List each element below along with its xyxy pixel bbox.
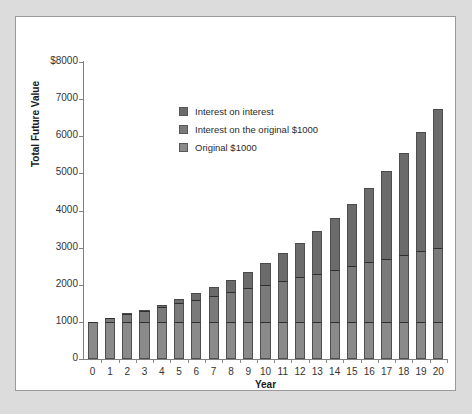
x-tick-mark bbox=[447, 359, 448, 363]
bar-year-20[interactable] bbox=[433, 109, 443, 359]
y-tick-label: 6000 bbox=[56, 129, 78, 140]
bar-year-3[interactable] bbox=[139, 310, 149, 359]
x-tick-mark bbox=[101, 359, 102, 363]
bar-segment-interest-on-original bbox=[312, 274, 322, 322]
y-tick-label: 3000 bbox=[56, 241, 78, 252]
x-tick-mark bbox=[222, 359, 223, 363]
y-tick-mark bbox=[79, 248, 84, 249]
legend-item[interactable]: Interest on interest bbox=[179, 103, 318, 119]
bar-segment-original bbox=[191, 322, 201, 359]
bar-year-18[interactable] bbox=[399, 153, 409, 359]
bar-year-19[interactable] bbox=[416, 132, 426, 359]
bar-year-6[interactable] bbox=[191, 293, 201, 359]
bar-segment-interest-on-interest bbox=[157, 305, 167, 307]
bar-segment-interest-on-interest bbox=[312, 231, 322, 274]
x-tick-mark bbox=[170, 359, 171, 363]
y-tick-mark bbox=[79, 322, 84, 323]
x-axis-line bbox=[83, 359, 448, 360]
bar-segment-interest-on-interest bbox=[278, 253, 288, 281]
y-tick-mark bbox=[79, 359, 84, 360]
bar-year-1[interactable] bbox=[105, 318, 115, 359]
x-tick-mark bbox=[343, 359, 344, 363]
x-tick-mark bbox=[136, 359, 137, 363]
bar-segment-interest-on-original bbox=[209, 296, 219, 322]
bar-year-14[interactable] bbox=[330, 218, 340, 359]
legend-item-label: Interest on the original $1000 bbox=[195, 124, 318, 135]
bar-segment-interest-on-original bbox=[157, 307, 167, 322]
bar-segment-original bbox=[416, 322, 426, 359]
legend-swatch-original bbox=[179, 143, 188, 152]
bar-year-0[interactable] bbox=[88, 322, 98, 359]
y-tick-mark bbox=[79, 173, 84, 174]
x-tick-mark bbox=[412, 359, 413, 363]
y-tick-mark bbox=[79, 62, 84, 63]
figure-frame: Total Future Value Year 0100020003000400… bbox=[0, 0, 472, 414]
bar-year-13[interactable] bbox=[312, 231, 322, 359]
bar-segment-interest-on-interest bbox=[243, 272, 253, 288]
y-tick-label: 0 bbox=[72, 352, 78, 363]
x-tick-mark bbox=[309, 359, 310, 363]
bar-segment-original bbox=[260, 322, 270, 359]
bar-year-15[interactable] bbox=[347, 204, 357, 359]
bar-year-9[interactable] bbox=[243, 272, 253, 359]
bar-segment-original bbox=[209, 322, 219, 359]
x-tick-mark bbox=[361, 359, 362, 363]
x-tick-mark bbox=[119, 359, 120, 363]
bar-segment-original bbox=[433, 322, 443, 359]
bar-segment-interest-on-interest bbox=[433, 109, 443, 247]
bar-segment-interest-on-original bbox=[260, 285, 270, 322]
y-tick-mark bbox=[79, 136, 84, 137]
bar-segment-interest-on-original bbox=[364, 262, 374, 321]
bar-segment-original bbox=[364, 322, 374, 359]
bar-segment-interest-on-interest bbox=[226, 280, 236, 292]
bar-segment-original bbox=[157, 322, 167, 359]
bar-segment-interest-on-original bbox=[139, 311, 149, 322]
legend-item-label: Interest on interest bbox=[195, 106, 274, 117]
bar-year-16[interactable] bbox=[364, 188, 374, 359]
bar-year-12[interactable] bbox=[295, 243, 305, 359]
x-tick-mark bbox=[240, 359, 241, 363]
bar-year-17[interactable] bbox=[381, 171, 391, 359]
bar-segment-interest-on-interest bbox=[399, 153, 409, 255]
bar-segment-original bbox=[312, 322, 322, 359]
y-tick-mark bbox=[79, 285, 84, 286]
x-tick-mark bbox=[257, 359, 258, 363]
bar-segment-interest-on-interest bbox=[174, 299, 184, 303]
bar-segment-interest-on-original bbox=[191, 300, 201, 322]
legend-item-label: Original $1000 bbox=[195, 142, 257, 153]
bar-year-10[interactable] bbox=[260, 263, 270, 359]
bar-segment-interest-on-interest bbox=[416, 132, 426, 251]
y-tick-label: $8000 bbox=[50, 55, 78, 66]
x-tick-mark bbox=[291, 359, 292, 363]
bar-segment-interest-on-original bbox=[399, 255, 409, 322]
bar-segment-original bbox=[330, 322, 340, 359]
legend-item[interactable]: Original $1000 bbox=[179, 139, 318, 155]
bar-segment-interest-on-interest bbox=[330, 218, 340, 270]
bar-segment-interest-on-original bbox=[226, 292, 236, 322]
x-tick-mark bbox=[188, 359, 189, 363]
bar-year-5[interactable] bbox=[174, 299, 184, 359]
bar-segment-interest-on-original bbox=[243, 288, 253, 321]
bar-segment-interest-on-original bbox=[278, 281, 288, 322]
legend-item[interactable]: Interest on the original $1000 bbox=[179, 121, 318, 137]
bar-segment-original bbox=[122, 322, 132, 359]
bar-year-7[interactable] bbox=[209, 287, 219, 359]
chart-legend: Interest on interestInterest on the orig… bbox=[179, 103, 318, 157]
bar-segment-original bbox=[399, 322, 409, 359]
bar-segment-original bbox=[243, 322, 253, 359]
x-tick-mark bbox=[274, 359, 275, 363]
y-tick-label: 1000 bbox=[56, 315, 78, 326]
bar-year-11[interactable] bbox=[278, 253, 288, 359]
bar-segment-original bbox=[88, 322, 98, 359]
bar-segment-interest-on-original bbox=[416, 251, 426, 322]
bar-segment-interest-on-original bbox=[295, 277, 305, 322]
x-tick-label: 20 bbox=[428, 366, 448, 377]
x-axis-title: Year bbox=[84, 379, 447, 390]
bar-year-2[interactable] bbox=[122, 314, 132, 359]
bar-segment-original bbox=[139, 322, 149, 359]
bar-segment-interest-on-interest bbox=[347, 204, 357, 266]
bar-segment-interest-on-interest bbox=[209, 287, 219, 296]
y-tick-label: 5000 bbox=[56, 166, 78, 177]
bar-year-4[interactable] bbox=[157, 305, 167, 359]
bar-year-8[interactable] bbox=[226, 280, 236, 359]
